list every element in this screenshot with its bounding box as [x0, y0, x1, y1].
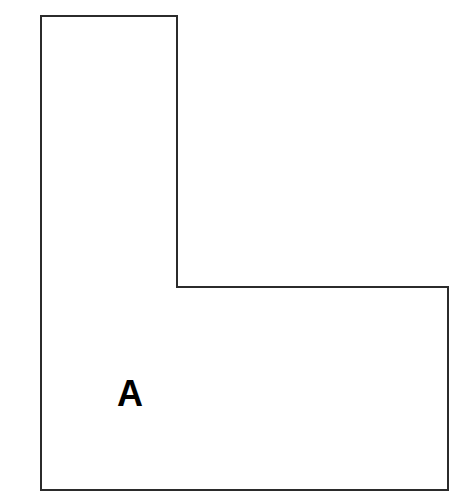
region-label-a: A: [117, 376, 143, 412]
l-shape-diagram: [0, 0, 473, 503]
figure-canvas: A: [0, 0, 473, 503]
l-shape-polygon: [41, 16, 448, 490]
